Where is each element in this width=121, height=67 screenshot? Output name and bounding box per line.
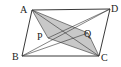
label-C: C xyxy=(101,52,108,63)
label-A: A xyxy=(20,4,28,15)
label-Q: Q xyxy=(84,28,92,39)
parallelogram-diagram: A B C D P Q xyxy=(0,0,121,67)
segment-CD xyxy=(99,9,110,56)
label-B: B xyxy=(12,51,19,62)
label-P: P xyxy=(37,31,43,42)
segment-DA xyxy=(32,9,110,10)
label-D: D xyxy=(111,3,118,14)
segment-AB xyxy=(22,10,32,56)
